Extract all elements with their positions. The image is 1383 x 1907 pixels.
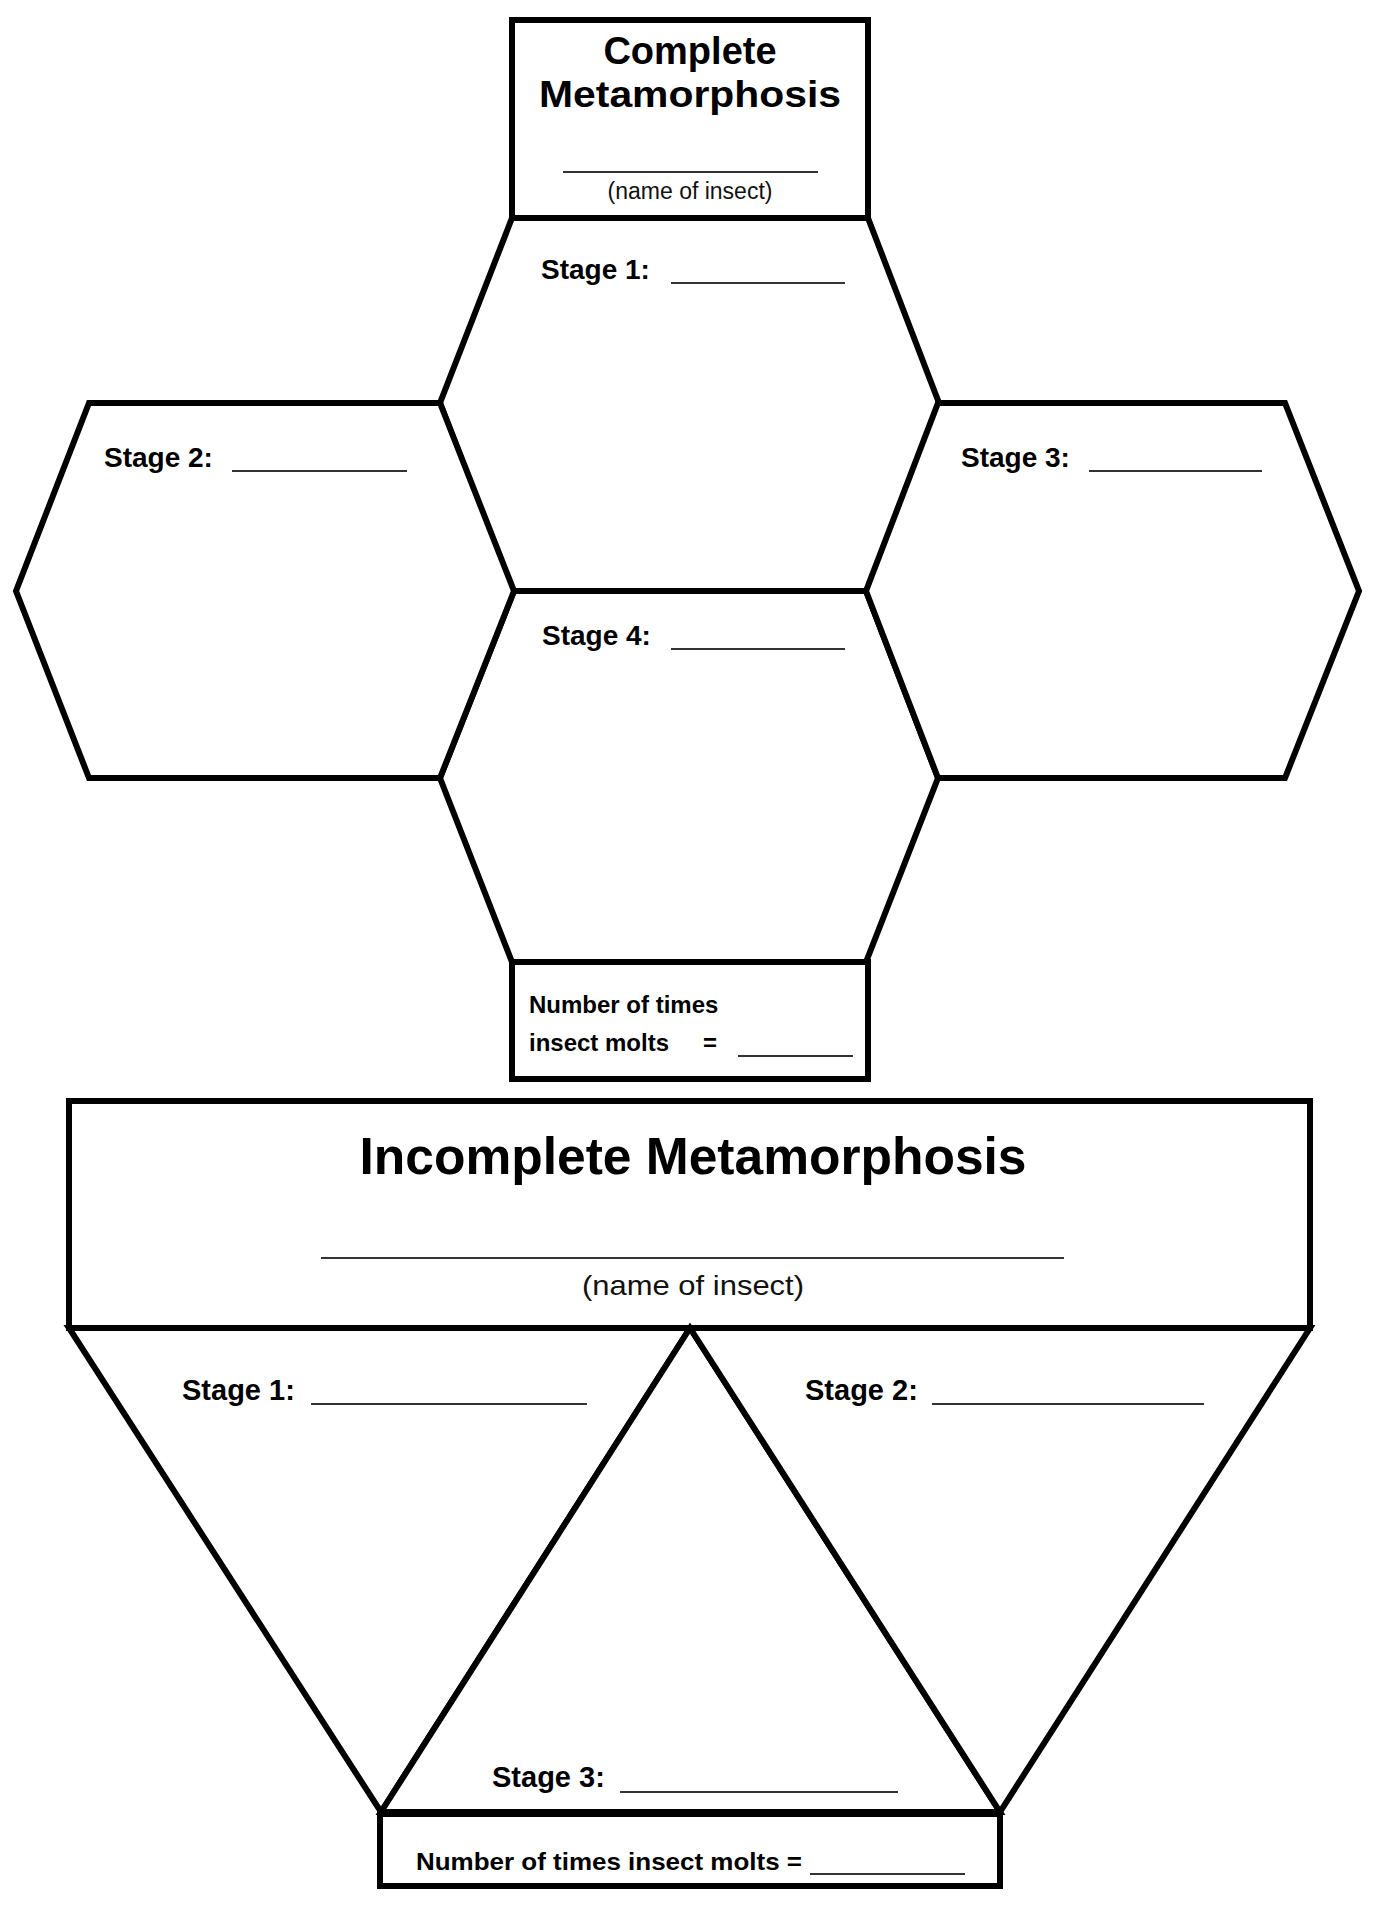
complete-stage2-label: Stage 2: [104,442,213,473]
complete-stage3-hexagon [866,403,1359,778]
complete-stage1-label: Stage 1: [541,254,650,285]
complete-stage3-label: Stage 3: [961,442,1070,473]
incomplete-title: Incomplete Metamorphosis [360,1127,1027,1185]
incomplete-stage3-label: Stage 3: [492,1761,605,1793]
complete-metamorphosis-section: Complete Metamorphosis (name of insect) … [16,20,1359,1079]
incomplete-name-caption: (name of insect) [582,1270,804,1301]
incomplete-metamorphosis-section: Incomplete Metamorphosis (name of insect… [69,1101,1310,1886]
complete-molts-line1: Number of times [529,991,718,1018]
complete-stage4-label: Stage 4: [542,620,651,651]
complete-title-line1: Complete [603,30,776,72]
complete-stage4-hexagon [440,591,938,962]
incomplete-molts-text: Number of times insect molts = [416,1848,802,1875]
complete-molts-line2: insect molts [529,1029,669,1056]
complete-stage2-hexagon [16,403,514,778]
complete-title-line2: Metamorphosis [539,74,841,115]
complete-name-caption: (name of insect) [608,178,773,204]
incomplete-stage1-label: Stage 1: [182,1374,295,1406]
complete-molts-box [512,962,868,1079]
metamorphosis-worksheet: Complete Metamorphosis (name of insect) … [0,0,1383,1907]
complete-stage1-hexagon [440,218,939,591]
incomplete-stage2-label: Stage 2: [805,1374,918,1406]
complete-molts-equals: = [703,1029,717,1056]
